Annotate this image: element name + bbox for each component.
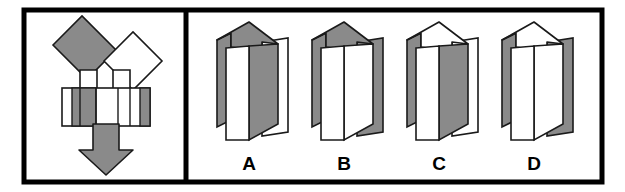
option-a-front-face — [226, 46, 249, 140]
band-stripe-gray-2 — [140, 88, 150, 126]
option-b-front-face — [321, 46, 344, 140]
option-d-label: D — [527, 153, 541, 174]
option-c-label: C — [432, 153, 446, 174]
option-c-side-face — [439, 44, 468, 140]
option-a-label: A — [242, 153, 256, 174]
option-a-side-face — [249, 44, 278, 140]
band-stripe-gray-1 — [72, 88, 96, 126]
figure-canvas: A B — [0, 0, 625, 192]
option-b-label: B — [337, 153, 351, 174]
option-b-side-face — [344, 44, 373, 140]
question-figure: A B — [0, 0, 625, 192]
option-c-front-face — [416, 46, 439, 140]
option-d-side-face — [534, 44, 563, 140]
option-d-front-face — [511, 46, 534, 140]
